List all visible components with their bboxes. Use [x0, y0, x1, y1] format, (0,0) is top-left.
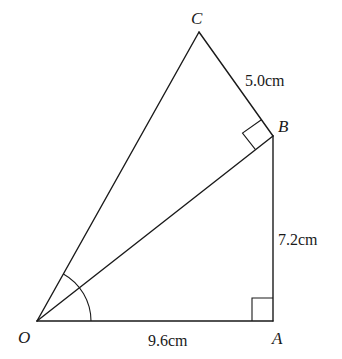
segment-OB	[37, 136, 273, 321]
measure-label-OA: 9.6cm	[148, 332, 188, 349]
vertex-label-C: C	[191, 9, 203, 28]
measure-label-BC: 5.0cm	[245, 72, 285, 89]
vertex-label-A: A	[271, 329, 283, 348]
vertex-label-O: O	[18, 328, 30, 347]
right-angle-mark-A	[252, 298, 273, 321]
measure-label-AB: 7.2cm	[278, 231, 318, 248]
geometry-diagram: O A B C 9.6cm 7.2cm 5.0cm	[0, 0, 342, 359]
segment-OC	[37, 32, 199, 321]
right-angle-mark-B	[243, 120, 262, 150]
vertex-label-B: B	[278, 117, 289, 136]
